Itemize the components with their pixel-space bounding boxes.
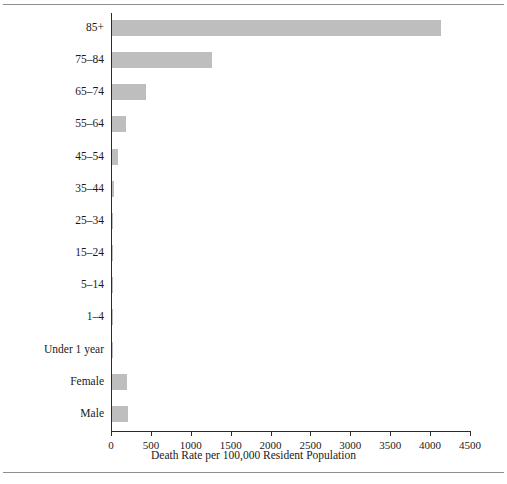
x-tick — [350, 431, 351, 436]
plot-area: 85+75–8465–7455–6445–5435–4425–3415–245–… — [111, 13, 470, 431]
category-label: 65–74 — [75, 83, 104, 100]
bar-row: 15–24 — [111, 238, 470, 269]
bar-row: 1–4 — [111, 302, 470, 333]
bar — [112, 52, 212, 68]
bar-row: 55–64 — [111, 109, 470, 140]
category-label: 45–54 — [75, 148, 104, 165]
x-tick — [151, 431, 152, 436]
bar-row: 75–84 — [111, 45, 470, 76]
x-tick — [191, 431, 192, 436]
bar — [112, 245, 113, 261]
category-label: 25–34 — [75, 212, 104, 229]
category-label: 1–4 — [87, 308, 104, 325]
bar — [112, 213, 113, 229]
bar-row: 5–14 — [111, 270, 470, 301]
category-label: 55–64 — [75, 115, 104, 132]
bar — [112, 149, 118, 165]
x-tick — [111, 431, 112, 436]
bar — [112, 342, 113, 358]
x-tick — [310, 431, 311, 436]
category-label: Under 1 year — [44, 341, 104, 358]
bar — [112, 84, 146, 100]
figure-bottom-rule — [3, 472, 504, 473]
bar — [112, 20, 441, 36]
bar — [112, 181, 114, 197]
bar — [112, 277, 113, 293]
category-label: Male — [80, 405, 104, 422]
x-tick — [271, 431, 272, 436]
category-label: 15–24 — [75, 244, 104, 261]
bar-row: 35–44 — [111, 174, 470, 205]
x-axis-line — [111, 431, 470, 432]
category-label: 35–44 — [75, 180, 104, 197]
category-label: 5–14 — [81, 276, 104, 293]
x-tick — [231, 431, 232, 436]
x-tick — [470, 431, 471, 436]
bar-row: Male — [111, 399, 470, 430]
x-axis-title: Death Rate per 100,000 Resident Populati… — [0, 449, 507, 461]
bar — [112, 309, 113, 325]
category-label: Female — [70, 373, 104, 390]
bar — [112, 374, 127, 390]
x-tick — [430, 431, 431, 436]
category-label: 75–84 — [75, 51, 104, 68]
bar — [112, 406, 128, 422]
bar-row: 45–54 — [111, 142, 470, 173]
bar — [112, 116, 126, 132]
category-label: 85+ — [86, 19, 104, 36]
x-tick — [390, 431, 391, 436]
bar-row: Under 1 year — [111, 335, 470, 366]
bar-row: Female — [111, 367, 470, 398]
figure-top-rule — [3, 4, 504, 5]
bar-row: 65–74 — [111, 77, 470, 108]
chart-figure: 85+75–8465–7455–6445–5435–4425–3415–245–… — [0, 0, 507, 484]
bar-row: 85+ — [111, 13, 470, 44]
bar-row: 25–34 — [111, 206, 470, 237]
